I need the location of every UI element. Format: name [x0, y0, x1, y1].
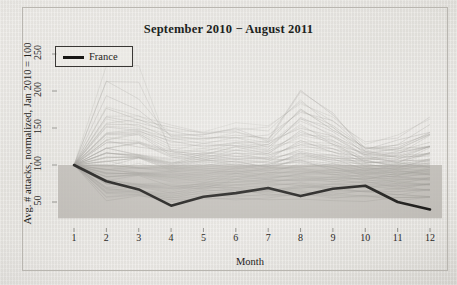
x-tick-label: 9 — [321, 232, 345, 243]
chart-legend: France — [55, 46, 133, 67]
y-tick-label: 200 — [32, 77, 43, 103]
legend-line-swatch — [63, 56, 84, 59]
x-tick-label: 12 — [418, 232, 442, 243]
x-tick-label: 8 — [289, 232, 313, 243]
x-tick-label: 4 — [159, 232, 183, 243]
chart-figure: September 2010 − August 2011 Avg. # atta… — [0, 0, 457, 285]
background-series-line — [74, 143, 430, 165]
x-tick-label: 3 — [127, 232, 151, 243]
legend-label-france: France — [89, 51, 118, 62]
y-tick-label: 250 — [32, 40, 43, 66]
y-tick-label: 150 — [32, 114, 43, 140]
background-series-line — [74, 104, 430, 165]
x-tick-label: 6 — [224, 232, 248, 243]
x-tick-label: 5 — [191, 232, 215, 243]
x-tick-label: 2 — [94, 232, 118, 243]
y-tick-label: 50 — [32, 188, 43, 214]
y-tick-label: 100 — [32, 151, 43, 177]
x-tick-label: 7 — [256, 232, 280, 243]
x-tick-label: 11 — [386, 232, 410, 243]
chart-title: September 2010 − August 2011 — [0, 22, 457, 37]
x-tick-label: 1 — [62, 232, 86, 243]
x-tick-label: 10 — [353, 232, 377, 243]
x-axis-label: Month — [60, 256, 440, 267]
